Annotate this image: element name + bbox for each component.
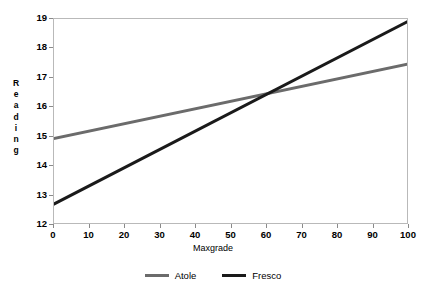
y-tick-label-14: 14 [25,160,47,170]
y-tick-label-15: 15 [25,131,47,141]
x-tick-mark-80 [337,224,338,228]
x-tick-mark-100 [408,224,409,228]
x-tick-label-10: 10 [77,230,101,240]
legend-swatch-atole [145,274,169,277]
y-axis-title-letter-1: e [8,89,24,100]
y-axis-title-letter-3: d [8,112,24,123]
legend-label-atole: Atole [175,270,197,281]
legend-swatch-fresco [222,274,246,277]
x-tick-mark-30 [160,224,161,228]
legend-label-fresco: Fresco [252,270,281,281]
legend-entry-fresco[interactable]: Fresco [222,270,281,281]
x-tick-mark-60 [266,224,267,228]
y-tick-label-12: 12 [25,219,47,229]
plot-area [53,18,408,224]
y-axis-title-letter-4: i [8,123,24,134]
x-tick-mark-0 [53,224,54,228]
y-axis-title-letter-6: g [8,145,24,156]
x-tick-mark-90 [373,224,374,228]
y-axis-title-letter-2: a [8,100,24,111]
x-tick-label-30: 30 [148,230,172,240]
x-tick-mark-50 [231,224,232,228]
x-tick-mark-20 [124,224,125,228]
x-tick-mark-70 [302,224,303,228]
x-tick-label-100: 100 [396,230,420,240]
legend-entry-atole[interactable]: Atole [145,270,197,281]
chart-legend: AtoleFresco [0,270,426,281]
y-tick-label-18: 18 [25,42,47,52]
y-tick-label-16: 16 [25,101,47,111]
x-tick-label-90: 90 [361,230,385,240]
x-tick-label-70: 70 [290,230,314,240]
x-tick-mark-10 [89,224,90,228]
series-line-atole [54,64,407,138]
y-axis-title: Reading [8,78,24,156]
y-tick-label-19: 19 [25,13,47,23]
x-tick-mark-40 [195,224,196,228]
y-tick-label-17: 17 [25,72,47,82]
x-tick-label-20: 20 [112,230,136,240]
y-axis-title-letter-0: R [8,78,24,89]
series-line-fresco [54,22,407,204]
x-tick-label-0: 0 [41,230,65,240]
y-axis-title-letter-5: n [8,134,24,145]
x-tick-label-40: 40 [183,230,207,240]
plot-lines [54,19,407,223]
x-tick-label-60: 60 [254,230,278,240]
line-chart: Reading 1213141516171819 010203040506070… [0,0,426,295]
x-tick-label-80: 80 [325,230,349,240]
y-tick-label-13: 13 [25,190,47,200]
x-tick-label-50: 50 [219,230,243,240]
x-axis-title: Maxgrade [0,243,426,253]
